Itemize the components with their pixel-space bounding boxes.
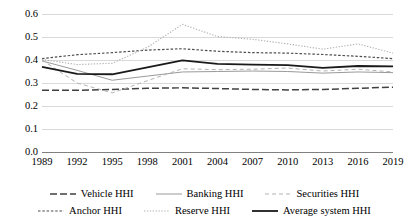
x-axis-tick-label: 2013: [303, 156, 343, 168]
legend-item-vehicle-hhi[interactable]: Vehicle HHI: [50, 188, 134, 199]
x-axis-tick-label: 2001: [162, 156, 202, 168]
legend-item-average-system-hhi[interactable]: Average system HHI: [252, 205, 371, 216]
y-axis-tick-label: 0.6: [4, 9, 38, 20]
x-axis-tick-label: 2016: [338, 156, 378, 168]
legend-label: Securities HHI: [296, 188, 359, 199]
legend-item-anchor-hhi[interactable]: Anchor HHI: [38, 205, 122, 216]
series-line-vehicle-hhi: [42, 87, 393, 90]
legend-item-banking-hhi[interactable]: Banking HHI: [156, 188, 244, 199]
legend-label: Reserve HHI: [175, 205, 230, 216]
legend-item-reserve-hhi[interactable]: Reserve HHI: [144, 205, 230, 216]
x-axis-tick-label: 2004: [198, 156, 238, 168]
series-line-reserve-hhi: [42, 24, 393, 64]
chart-legend: Vehicle HHIBanking HHISecurities HHIAnch…: [0, 186, 409, 220]
legend-swatch-icon: [38, 206, 64, 216]
y-axis-tick-label: 0.1: [4, 124, 38, 135]
x-axis-tick-label: 1998: [127, 156, 167, 168]
legend-label: Average system HHI: [283, 205, 371, 216]
x-axis-tick-label: 2019: [373, 156, 409, 168]
legend-swatch-icon: [252, 206, 278, 216]
y-axis-tick-label: 0.2: [4, 101, 38, 112]
legend-row: Anchor HHIReserve HHIAverage system HHI: [0, 203, 409, 218]
legend-row: Vehicle HHIBanking HHISecurities HHI: [0, 186, 409, 201]
legend-label: Banking HHI: [187, 188, 244, 199]
y-axis-tick-label: 0.5: [4, 32, 38, 43]
y-axis-tick-label: 0.3: [4, 78, 38, 89]
x-axis-tick-label: 1995: [92, 156, 132, 168]
x-axis-tick-label: 2010: [268, 156, 308, 168]
legend-swatch-icon: [144, 206, 170, 216]
series-line-anchor-hhi: [42, 49, 393, 59]
legend-item-securities-hhi[interactable]: Securities HHI: [265, 188, 359, 199]
x-axis-tick-label: 2007: [233, 156, 273, 168]
plot-area: [42, 14, 393, 152]
y-axis-tick-label: 0.4: [4, 55, 38, 66]
x-axis: 1989199219951998200120042007201020132016…: [42, 156, 393, 172]
legend-label: Vehicle HHI: [81, 188, 134, 199]
legend-swatch-icon: [265, 189, 291, 199]
x-axis-tick-label: 1989: [22, 156, 62, 168]
legend-swatch-icon: [50, 189, 76, 199]
line-chart: 0.60.50.40.30.20.10.0 198919921995199820…: [0, 0, 409, 224]
legend-swatch-icon: [156, 189, 182, 199]
x-axis-tick-label: 1992: [57, 156, 97, 168]
legend-label: Anchor HHI: [69, 205, 122, 216]
series-layer: [42, 14, 393, 152]
x-axis-line: [42, 152, 393, 153]
